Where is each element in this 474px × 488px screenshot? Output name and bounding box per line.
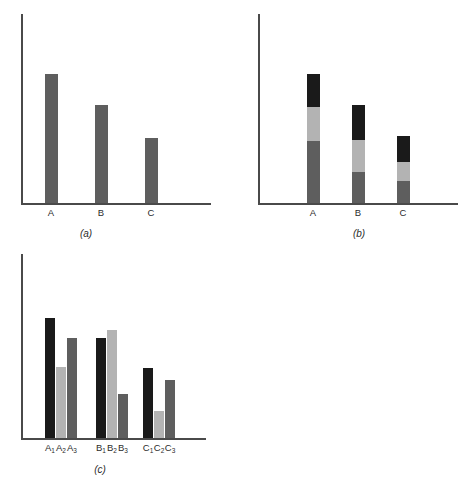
x-tick-label-A3: A3 (57, 442, 87, 454)
bar-b3 (118, 394, 128, 438)
bar-c-segment-3 (397, 181, 410, 203)
bar-c1 (143, 368, 153, 438)
bar-b2 (107, 330, 117, 438)
panel-caption-b: (b) (339, 228, 379, 239)
plot-area-a: ABC (a) (0, 0, 237, 244)
x-axis-a (21, 203, 211, 205)
panel-c-grouped-bar-chart: A1A2A3B1B2B3C1C2C3 (c) (0, 244, 237, 488)
bar-a-segment-3 (307, 141, 320, 203)
panel-caption-a: (a) (66, 228, 106, 239)
x-tick-label-C: C (136, 207, 166, 218)
bar-b-segment-2 (352, 140, 365, 172)
x-axis-c (21, 438, 206, 440)
panel-a-simple-bar-chart: ABC (a) (0, 0, 237, 244)
bar-a3 (67, 338, 77, 438)
bar-b1 (96, 338, 106, 438)
bar-b (95, 105, 108, 203)
panel-b-stacked-bar-chart: ABC (b) (237, 0, 474, 244)
x-tick-label-A: A (36, 207, 66, 218)
x-tick-label-A: A (298, 207, 328, 218)
x-tick-label-B: B (343, 207, 373, 218)
plot-area-b: ABC (b) (237, 0, 474, 244)
bar-c3 (165, 380, 175, 438)
bar-a-segment-1 (307, 74, 320, 107)
plot-area-c: A1A2A3B1B2B3C1C2C3 (c) (0, 244, 237, 488)
bar-c2 (154, 411, 164, 438)
bar-a-segment-2 (307, 107, 320, 141)
bar-c (145, 138, 158, 203)
panel-caption-c: (c) (80, 464, 120, 475)
x-tick-label-C3: C3 (155, 442, 185, 454)
bar-a2 (56, 367, 66, 438)
bar-b-segment-1 (352, 105, 365, 140)
bar-a1 (45, 318, 55, 438)
bar-c-segment-2 (397, 162, 410, 181)
bar-a (45, 74, 58, 203)
y-axis-a (21, 14, 23, 204)
x-tick-label-C: C (388, 207, 418, 218)
x-axis-b (258, 203, 458, 205)
bar-b-segment-3 (352, 172, 365, 203)
y-axis-c (21, 254, 23, 438)
x-tick-label-B: B (86, 207, 116, 218)
y-axis-b (258, 14, 260, 204)
bar-c-segment-1 (397, 136, 410, 162)
